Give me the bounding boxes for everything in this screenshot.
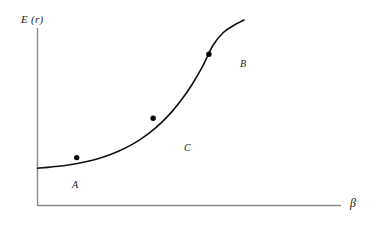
data-point-a [74,155,79,160]
y-axis-label: E (r) [21,13,44,25]
point-label-a: A [72,179,78,190]
data-point-c [150,116,155,121]
data-curve [38,20,245,168]
point-label-b: B [240,58,246,69]
point-label-c: C [184,142,191,153]
data-point-b [206,52,211,57]
plot-canvas [0,0,381,236]
exponential-curve-figure: E (r) β A C B [0,0,381,236]
x-axis-label: β [350,196,356,211]
